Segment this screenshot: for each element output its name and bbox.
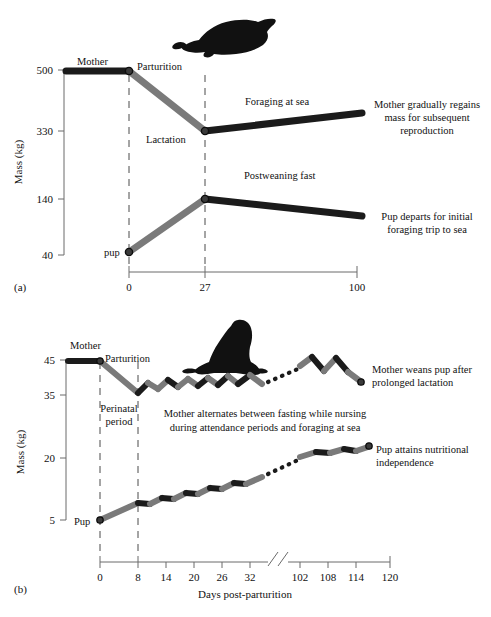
phocid-seal-icon [172,19,275,58]
panel-b-pup-independence-point [366,443,372,449]
panel-b-ytick-1: 35 [44,389,56,401]
panel-b-ytick-0: 45 [44,354,56,366]
panel-a-xtick-1: 27 [200,281,212,293]
panel-a: 500 330 140 40 Mass (kg) 0 27 100 [12,19,490,294]
panel-a-note-pup-text: Pup departs for initial foraging trip to… [381,211,472,235]
panel-a-pup-weaning-point [201,195,208,202]
panel-b-ytick-3: 5 [50,514,56,526]
panel-b-label-perinatal: Perinatal period [98,402,140,436]
panel-b-label-parturition: Parturition [105,353,151,364]
panel-a-pup-suckling-segment [129,199,205,252]
panel-a-pup-postweaning-segment [205,199,362,216]
panel-b-xtick-3: 20 [189,571,201,583]
panel-b-mother-break-dots [268,368,300,382]
panel-b-xtick-1: 8 [135,571,141,583]
panel-b-note-alternates-text: Mother alternates between fasting while … [164,408,367,433]
panel-b: 45 35 20 5 Mass (kg) 0 8 [14,320,491,600]
panel-a-marker: (a) [14,281,27,294]
panel-a-mother-parturition-point [125,67,132,74]
panel-a-label-parturition: Parturition [137,61,183,72]
panel-a-mother-weaning-point [201,127,208,134]
panel-b-y-axis: 45 35 20 5 Mass (kg) [14,354,66,526]
panel-a-mother-lactation-segment [129,71,205,131]
panel-b-pup-break-dots [268,459,300,474]
panel-a-pup-series [125,195,362,255]
panel-a-xtick-2: 100 [349,281,366,293]
panel-a-note-pup: Pup departs for initial foraging trip to… [364,210,490,250]
panel-b-label-perinatal-text: Perinatal period [100,403,137,427]
panel-b-xtick-5: 32 [245,571,256,583]
panel-b-note-mother-text: Mother weans pup after prolonged lactati… [372,364,472,388]
figure-seal-mass-trajectories: 500 330 140 40 Mass (kg) 0 27 100 [0,0,491,617]
panel-b-x-axis-title: Days post-parturition [198,588,292,600]
panel-a-ytick-1: 330 [37,125,54,137]
otariid-sealion-icon [182,320,267,375]
panel-b-x-axis: 0 8 14 20 26 32 102 108 114 120 Days pos… [97,552,399,600]
panel-b-mother-weaning-point [358,379,364,385]
panel-b-note-mother: Mother weans pup after prolonged lactati… [372,363,490,399]
panel-b-mother-perinatal-segment [100,361,138,393]
panel-b-xtick-4: 26 [217,571,229,583]
panel-a-label-mother: Mother [77,56,108,67]
panel-a-mother-series [66,67,362,134]
panel-a-ytick-3: 40 [42,249,54,261]
panel-b-label-mother: Mother [70,340,101,351]
panel-a-pup-birth-point [125,248,132,255]
panel-a-label-postweaning: Postweaning fast [244,170,316,181]
panel-b-y-axis-title: Mass (kg) [14,430,27,475]
panel-b-mother-parturition-point [97,358,103,364]
panel-b-mother-zig-12 [250,375,262,384]
panel-a-y-axis-title: Mass (kg) [12,140,25,185]
panel-a-label-pup: pup [104,247,120,258]
panel-b-axis-break [268,552,288,566]
panel-b-marker: (b) [14,583,27,596]
panel-a-label-lactation: Lactation [146,134,186,145]
panel-b-label-pup: Pup [74,516,90,527]
panel-a-x-axis: 0 27 100 [126,266,366,293]
panel-a-label-foraging: Foraging at sea [245,96,309,107]
panel-a-note-mother: Mother gradually regains mass for subseq… [364,98,490,150]
panel-a-ytick-0: 500 [37,64,54,76]
figure-canvas: 500 330 140 40 Mass (kg) 0 27 100 [0,0,491,617]
panel-a-xtick-0: 0 [126,281,132,293]
panel-a-mother-foraging-segment [205,113,362,131]
panel-b-pup-birth-point [97,517,103,523]
panel-b-ytick-2: 20 [44,452,56,464]
panel-b-xtick-9: 120 [382,571,399,583]
panel-b-xtick-7: 108 [320,571,337,583]
panel-b-xtick-6: 102 [292,571,309,583]
panel-b-pup-step-10 [246,477,262,484]
panel-b-xtick-8: 114 [348,571,365,583]
panel-b-note-pup: Pup attains nutritional independence [376,443,491,479]
panel-b-note-alternates: Mother alternates between fasting while … [150,407,380,441]
panel-a-note-mother-text: Mother gradually regains mass for subseq… [374,99,480,136]
panel-b-xtick-0: 0 [97,571,103,583]
panel-b-xtick-2: 14 [161,571,173,583]
panel-a-y-axis: 500 330 140 40 Mass (kg) [12,64,64,261]
panel-b-note-pup-text: Pup attains nutritional independence [376,444,469,468]
panel-b-pup-perinatal-segment [100,503,138,520]
panel-a-ytick-2: 140 [37,193,54,205]
